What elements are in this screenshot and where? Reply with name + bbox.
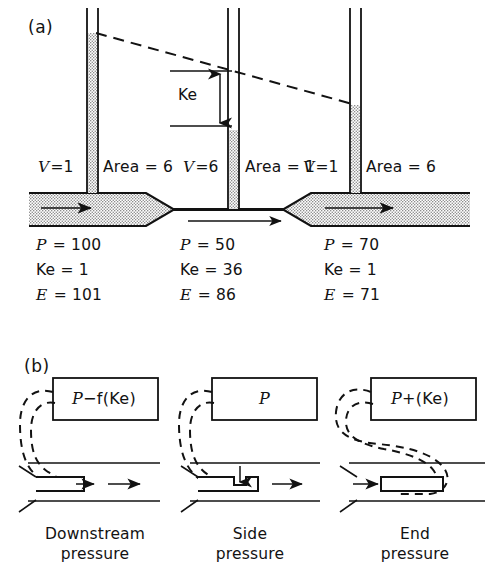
- station-3-velocity: V=1: [303, 160, 339, 176]
- station-3-area-value: = 6: [408, 158, 436, 176]
- station-3-pressure: P = 70: [324, 238, 379, 254]
- caption-side-line2: pressure: [190, 547, 310, 563]
- station-3-energy: E = 71: [324, 288, 380, 304]
- station-1-area-value: = 6: [145, 158, 173, 176]
- station-1-ke-value: = 1: [60, 261, 88, 279]
- venturi-fluid-right-tail: [434, 193, 470, 226]
- caption-downstream-line2: pressure: [20, 547, 170, 563]
- station-3-area: Area = 6: [366, 160, 436, 176]
- station-2-velocity: V=6: [183, 160, 219, 176]
- station-1-velocity: V=1: [38, 160, 74, 176]
- probe-side-group: [179, 378, 320, 512]
- caption-end: End pressure: [355, 527, 475, 562]
- station-1-ke-symbol: Ke: [36, 261, 55, 279]
- caption-downstream: Downstream pressure: [20, 527, 170, 562]
- station-1-velocity-value: =1: [50, 158, 73, 176]
- manometer-tube-2-fluid: [229, 130, 238, 209]
- station-2-energy-value: = 86: [198, 286, 236, 304]
- panel-a-venturi: [29, 8, 470, 226]
- station-3-energy-value: = 71: [342, 286, 380, 304]
- station-1-energy: E = 101: [36, 288, 102, 304]
- station-3-ke-symbol: Ke: [324, 261, 343, 279]
- energy-grade-dashed-line: [96, 33, 356, 105]
- ke-bracket-label: Ke: [178, 88, 197, 104]
- probe-end-gauge-expression: +(Ke): [402, 389, 449, 408]
- station-1-area-symbol: Area: [103, 158, 139, 176]
- probe-downstream-vessel-left-flare: [19, 466, 36, 512]
- station-2-pressure-value: = 50: [197, 236, 235, 254]
- caption-end-line2: pressure: [355, 547, 475, 563]
- probe-downstream-gauge-label: P−f(Ke): [72, 391, 136, 407]
- station-1-energy-symbol: E: [36, 286, 49, 304]
- caption-end-line1: End: [400, 525, 430, 543]
- caption-side-line1: Side: [233, 525, 267, 543]
- probe-end-body: [381, 477, 443, 491]
- station-3-velocity-symbol: V: [303, 158, 315, 176]
- station-1-pressure: P = 100: [36, 238, 101, 254]
- station-2-ke: Ke = 36: [180, 263, 243, 279]
- probe-side-vessel-left-flare: [181, 466, 198, 512]
- station-3-energy-symbol: E: [324, 286, 337, 304]
- station-2-ke-value: = 36: [204, 261, 242, 279]
- caption-downstream-line1: Downstream: [45, 525, 145, 543]
- panel-b-tag: (b): [24, 358, 50, 375]
- station-2-energy-symbol: E: [180, 286, 193, 304]
- station-2-pressure: P = 50: [180, 238, 235, 254]
- station-1-pressure-symbol: P: [36, 236, 48, 254]
- station-3-area-symbol: Area: [366, 158, 402, 176]
- station-2-ke-symbol: Ke: [180, 261, 199, 279]
- station-1-ke: Ke = 1: [36, 263, 89, 279]
- probe-side-gauge-label: P: [259, 391, 270, 407]
- station-3-ke: Ke = 1: [324, 263, 377, 279]
- station-1-velocity-symbol: V: [38, 158, 50, 176]
- figure-root: (a) Ke V=1 Area = 6 V=6 Area = 1 V=1 Are…: [0, 0, 494, 578]
- station-3-pressure-symbol: P: [324, 236, 336, 254]
- station-2-velocity-symbol: V: [183, 158, 195, 176]
- station-3-ke-value: = 1: [348, 261, 376, 279]
- probe-side-tubing-outer: [179, 391, 216, 488]
- station-1-area: Area = 6: [103, 160, 173, 176]
- station-1-pressure-value: = 100: [53, 236, 102, 254]
- probe-end-gauge-symbol: P: [391, 389, 402, 408]
- probe-downstream-gauge-symbol: P: [72, 389, 83, 408]
- probe-downstream-gauge-expression: −f(Ke): [83, 389, 136, 408]
- station-1-energy-value: = 101: [54, 286, 103, 304]
- station-3-pressure-value: = 70: [341, 236, 379, 254]
- probe-end-vessel-left-flare: [340, 466, 357, 512]
- caption-side: Side pressure: [190, 527, 310, 562]
- station-2-pressure-symbol: P: [180, 236, 192, 254]
- station-2-energy: E = 86: [180, 288, 236, 304]
- station-2-area-symbol: Area: [245, 158, 281, 176]
- probe-side-body: [198, 477, 258, 491]
- manometer-tube-1-fluid: [88, 33, 97, 193]
- probe-side-gauge-symbol: P: [259, 389, 270, 408]
- manometer-tube-3-fluid: [351, 105, 360, 193]
- station-2-velocity-value: =6: [195, 158, 218, 176]
- panel-a-tag: (a): [28, 19, 53, 36]
- probe-end-gauge-label: P+(Ke): [391, 391, 449, 407]
- station-3-velocity-value: =1: [315, 158, 338, 176]
